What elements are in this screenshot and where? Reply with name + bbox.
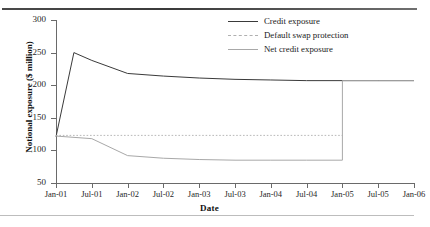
page-rule-bottom: [0, 215, 414, 216]
y-tick-label: 300: [0, 15, 46, 24]
y-tick-label: 150: [0, 113, 46, 122]
y-tick-label: 100: [0, 145, 46, 154]
dashed-gray-line-icon: [228, 31, 258, 40]
x-tick-mark: [378, 183, 379, 188]
y-tick-label: 250: [0, 48, 46, 57]
x-tick-mark: [271, 183, 272, 188]
legend-item: Default swap protection: [228, 28, 349, 42]
y-axis-title: Notional exposure ($ million): [24, 12, 34, 182]
legend-item-label: Default swap protection: [264, 30, 349, 40]
legend-item: Net credit exposure: [228, 42, 349, 56]
x-tick-mark: [56, 183, 57, 188]
x-tick-mark: [342, 183, 343, 188]
legend-item-label: Net credit exposure: [264, 44, 333, 54]
x-tick-label: Jan-06: [391, 190, 430, 199]
x-tick-mark: [163, 183, 164, 188]
series-line-net-credit-exposure: [56, 81, 414, 161]
y-tick-label: 200: [0, 80, 46, 89]
legend-item: Credit exposure: [228, 14, 349, 28]
x-tick-mark: [307, 183, 308, 188]
y-tick-label: 50: [0, 178, 46, 187]
x-tick-mark: [235, 183, 236, 188]
solid-dark-line-icon: [228, 17, 258, 26]
chart-legend: Credit exposureDefault swap protectionNe…: [228, 14, 349, 56]
x-axis-title: Date: [0, 203, 419, 213]
x-tick-mark: [199, 183, 200, 188]
page-rule-top: [2, 8, 417, 10]
x-tick-mark: [128, 183, 129, 188]
x-tick-mark: [414, 183, 415, 188]
solid-gray-line-icon: [228, 45, 258, 54]
legend-item-label: Credit exposure: [264, 16, 320, 26]
x-tick-mark: [92, 183, 93, 188]
series-line-credit-exposure: [56, 53, 414, 137]
